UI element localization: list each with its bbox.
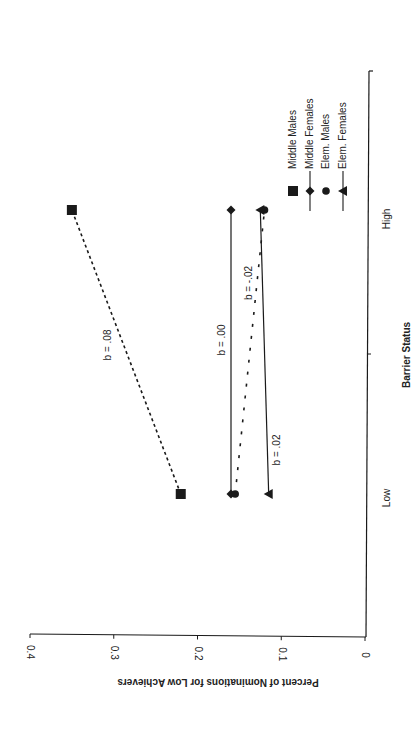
legend-label: Elem. Females xyxy=(337,102,348,169)
slope-label: b = .00 xyxy=(216,324,227,355)
legend-label: Middle Females xyxy=(304,98,315,169)
legend-item-elem-females: Elem. Females xyxy=(337,102,348,211)
series-middle-females xyxy=(227,206,236,499)
y-tick-label: 0.2 xyxy=(193,647,204,661)
series-line xyxy=(235,210,264,494)
slope-labels: b = .08b = .00b = -.02b = .02 xyxy=(102,265,282,465)
series-elem-males xyxy=(231,206,268,498)
series-line xyxy=(72,210,181,494)
y-tick-label: 0.3 xyxy=(109,646,120,660)
circle-marker xyxy=(231,490,239,498)
square-marker xyxy=(176,489,186,499)
legend-item-middle-females: Middle Females xyxy=(304,98,315,211)
plot-series xyxy=(67,205,273,499)
legend-square-icon xyxy=(288,186,298,196)
x-category-low: Low xyxy=(381,488,392,507)
y-axis-title: Percent of Nominations for Low Achievers xyxy=(117,677,319,688)
diamond-marker xyxy=(227,206,236,215)
legend-label: Elem. Males xyxy=(320,114,331,169)
series-line xyxy=(260,210,268,494)
chart: 00.10.20.30.4 Percent of Nominations for… xyxy=(0,0,420,739)
legend-diamond-icon xyxy=(306,187,315,196)
legend: Middle MalesMiddle FemalesElem. MalesEle… xyxy=(287,98,348,211)
y-tick-label: 0.4 xyxy=(25,645,36,659)
y-axis: 00.10.20.30.4 Percent of Nominations for… xyxy=(25,634,371,688)
legend-circle-icon xyxy=(322,187,330,195)
slope-label: b = -.02 xyxy=(243,265,254,300)
x-axis: High Low Barrier Status xyxy=(366,71,412,637)
square-marker xyxy=(67,205,77,215)
series-middle-males xyxy=(67,205,186,499)
legend-item-middle-males: Middle Males xyxy=(287,110,298,196)
triangle-marker xyxy=(255,205,264,215)
x-axis-title: Barrier Status xyxy=(401,321,412,388)
x-category-high: High xyxy=(381,209,392,230)
y-ticks: 00.10.20.30.4 xyxy=(25,634,371,662)
y-tick-label: 0.1 xyxy=(277,647,288,661)
y-tick-label: 0 xyxy=(360,652,371,658)
legend-label: Middle Males xyxy=(287,110,298,169)
legend-item-elem-males: Elem. Males xyxy=(320,114,331,195)
slope-label: b = .02 xyxy=(271,434,282,465)
slope-label: b = .08 xyxy=(102,329,113,360)
